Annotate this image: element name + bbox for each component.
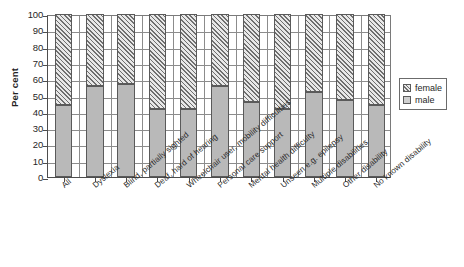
bar-segment-female: [368, 14, 386, 105]
bar-segment-female: [117, 14, 135, 84]
y-axis-tick: [43, 179, 48, 180]
gridline-vertical: [298, 16, 299, 177]
gridline-vertical: [142, 16, 143, 177]
gridline-vertical: [361, 16, 362, 177]
bar-segment-female: [211, 14, 229, 86]
legend-item-female: female: [403, 82, 442, 94]
chart-legend: female male: [399, 78, 447, 110]
bar-segment-female: [305, 14, 323, 92]
stacked-bar-chart: Per cent 1009080706050403020100 AllDysle…: [0, 0, 464, 267]
gridline-vertical: [111, 16, 112, 177]
legend-label-male: male: [415, 95, 435, 105]
y-axis-tick: [43, 32, 48, 33]
y-axis-tick-label: 10: [17, 156, 43, 167]
bar-segment-female: [86, 14, 104, 86]
legend-swatch-female-icon: [403, 84, 411, 92]
gridline-vertical: [173, 16, 174, 177]
y-axis-tick: [43, 16, 48, 17]
y-axis-tick-label: 100: [17, 9, 43, 20]
y-axis-tick-label: 50: [17, 91, 43, 102]
y-axis-tick: [43, 81, 48, 82]
legend-label-female: female: [415, 83, 442, 93]
bar-stack: [55, 14, 73, 177]
y-axis-tick-label: 40: [17, 107, 43, 118]
y-axis-tick: [43, 130, 48, 131]
y-axis-tick: [43, 146, 48, 147]
legend-item-male: male: [403, 94, 442, 106]
y-axis-tick-label: 70: [17, 58, 43, 69]
bar-segment-male: [117, 84, 135, 177]
y-axis-tick-label: 30: [17, 123, 43, 134]
bar-segment-female: [55, 14, 73, 105]
x-axis-tick-label: All: [60, 177, 73, 190]
y-axis-tick: [43, 49, 48, 50]
bar-segment-female: [274, 14, 292, 109]
bar-segment-female: [243, 14, 261, 102]
y-axis-tick: [43, 163, 48, 164]
bar-segment-female: [180, 14, 198, 109]
y-axis-tick-label: 20: [17, 139, 43, 150]
gridline-vertical: [267, 16, 268, 177]
y-axis-tick: [43, 65, 48, 66]
gridline-vertical: [204, 16, 205, 177]
gridline-vertical: [79, 16, 80, 177]
bar-segment-male: [55, 105, 73, 177]
legend-swatch-male-icon: [403, 96, 411, 104]
y-axis-tick: [43, 98, 48, 99]
gridline-vertical: [236, 16, 237, 177]
y-axis-tick: [43, 114, 48, 115]
y-axis-tick-label: 90: [17, 25, 43, 36]
bar-segment-female: [149, 14, 167, 109]
y-axis-tick-label: 80: [17, 42, 43, 53]
bar-stack: [117, 14, 135, 177]
gridline-vertical: [329, 16, 330, 177]
bar-stack: [86, 14, 104, 177]
bar-segment-male: [86, 86, 104, 177]
y-axis-tick-label: 0: [17, 172, 43, 183]
y-axis-tick-label: 60: [17, 74, 43, 85]
bar-segment-female: [336, 14, 354, 100]
